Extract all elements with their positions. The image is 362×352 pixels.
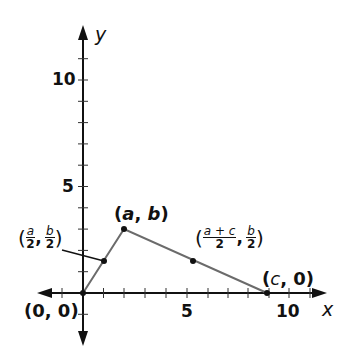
point-base-end — [264, 290, 270, 296]
y-axis-arrow-up — [78, 25, 88, 40]
label-midpoint-left: (a2, b2) — [18, 225, 62, 250]
x-axis-arrow-right — [312, 288, 327, 298]
mid-right-den2: 2 — [246, 238, 256, 250]
y-tick-label-5: 5 — [62, 178, 74, 195]
x-tick-label-5: 5 — [181, 303, 193, 320]
x-tick-label-10: 10 — [276, 303, 300, 320]
point-origin — [80, 290, 86, 296]
label-base-end-c: c — [270, 268, 280, 289]
y-axis-label: y — [95, 25, 106, 44]
x-axis-label: x — [322, 300, 333, 319]
label-apex-b: b — [148, 203, 161, 224]
y-tick-label-10: 10 — [52, 71, 76, 88]
point-midpoint-left — [101, 258, 107, 264]
x-axis-arrow-left — [37, 288, 52, 298]
y-axis-arrow-down — [78, 331, 88, 346]
mid-right-den1: 2 — [203, 238, 237, 250]
label-midpoint-right: (a + c2, b2) — [195, 225, 264, 250]
point-midpoint-right — [190, 258, 196, 264]
label-origin: (0, 0) — [24, 302, 79, 320]
label-base-end: (c, 0) — [262, 270, 314, 288]
label-apex: (a, b) — [114, 205, 169, 223]
mid-left-den1: 2 — [26, 238, 35, 250]
label-base-end-zero: 0 — [293, 268, 306, 289]
mid-left-den2: 2 — [45, 238, 55, 250]
label-apex-a: a — [122, 203, 134, 224]
point-apex — [121, 226, 127, 232]
